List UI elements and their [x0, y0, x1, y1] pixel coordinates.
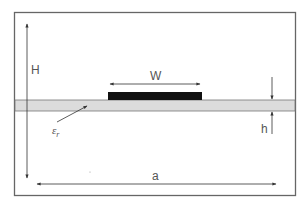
width-a-label: a — [152, 169, 159, 183]
conductor-strip — [108, 92, 202, 100]
stray-dot — [89, 171, 90, 172]
substrate-layer — [15, 100, 295, 111]
microstrip-diagram: H W h εr a — [0, 0, 307, 205]
width-W-label: W — [150, 69, 162, 83]
height-H-label: H — [31, 63, 40, 77]
thickness-h-label: h — [261, 122, 268, 136]
